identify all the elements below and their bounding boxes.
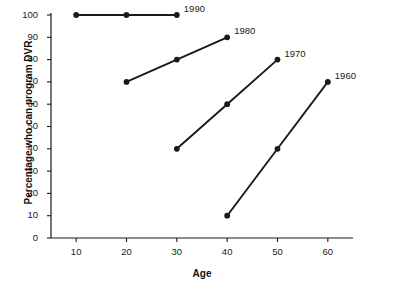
data-point-marker — [124, 12, 130, 18]
y-axis-tick-label: 50 — [12, 120, 38, 131]
y-axis-tick-label: 80 — [12, 53, 38, 64]
series-markers — [73, 12, 330, 219]
y-axis-tick-label: 40 — [12, 142, 38, 153]
series-lines — [76, 15, 328, 216]
x-axis-tick-label: 40 — [212, 246, 242, 257]
y-axis-tick-label: 30 — [12, 165, 38, 176]
y-axis-tick-label: 20 — [12, 187, 38, 198]
y-axis-tick-label: 90 — [12, 31, 38, 42]
x-axis-tick-label: 20 — [112, 246, 142, 257]
series-label-1970: 1970 — [285, 48, 306, 59]
series-label-1990: 1990 — [184, 3, 205, 14]
x-axis-tick-label: 60 — [313, 246, 343, 257]
data-point-marker — [174, 146, 180, 152]
x-axis-ticks — [76, 238, 328, 242]
data-point-marker — [124, 79, 130, 85]
data-point-marker — [224, 34, 230, 40]
y-axis-tick-label: 60 — [12, 98, 38, 109]
y-axis-tick-label: 100 — [12, 9, 38, 20]
y-axis-tick-label: 70 — [12, 75, 38, 86]
data-point-marker — [174, 12, 180, 18]
y-axis-tick-label: 0 — [12, 232, 38, 243]
x-axis-tick-label: 30 — [162, 246, 192, 257]
x-axis-tick-label: 50 — [263, 246, 293, 257]
x-axis-tick-label: 10 — [61, 246, 91, 257]
series-label-1960: 1960 — [335, 70, 356, 81]
data-point-marker — [275, 57, 281, 63]
series-label-1980: 1980 — [234, 25, 255, 36]
data-point-marker — [275, 146, 281, 152]
data-point-marker — [174, 57, 180, 63]
data-point-marker — [73, 12, 79, 18]
y-axis-tick-label: 10 — [12, 209, 38, 220]
line-chart-figure: Percentage who can program DVR Age 01020… — [0, 0, 405, 295]
data-point-marker — [325, 79, 331, 85]
data-point-marker — [224, 213, 230, 219]
data-point-marker — [224, 101, 230, 107]
